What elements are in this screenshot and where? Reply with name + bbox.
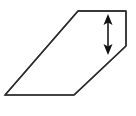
figure-canvas bbox=[0, 0, 136, 116]
geometry-diagram-svg bbox=[0, 0, 136, 116]
